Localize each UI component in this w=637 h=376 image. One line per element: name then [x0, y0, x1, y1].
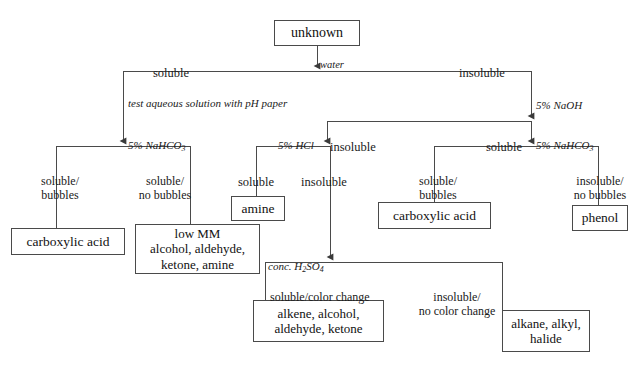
node-carboxylic-acid-left-label: carboxylic acid — [12, 234, 124, 250]
flowchart-canvas: unknown carboxylic acid low MM alcohol, … — [0, 0, 637, 376]
node-phenol: phenol — [572, 205, 628, 231]
branch-h2so4-no-color-change: insoluble/ no color change — [412, 277, 502, 318]
node-carboxylic-acid-left: carboxylic acid — [11, 228, 125, 255]
branch-naoh-soluble: soluble — [475, 126, 533, 155]
node-alkane-alkyl-halide: alkane, alkyl, halide — [502, 310, 590, 352]
branch-nahco3-left-no-bubbles: soluble/ no bubbles — [124, 161, 206, 202]
node-unknown: unknown — [274, 20, 360, 46]
reagent-nahco3-right-label: 5% NaHCO3 — [536, 126, 618, 153]
node-carboxylic-acid-right-label: carboxylic acid — [379, 208, 490, 224]
reagent-hcl-label: 5% HCl — [278, 126, 326, 151]
node-low-mm-label: low MM alcohol, aldehyde, ketone, amine — [136, 226, 259, 272]
branch-water-soluble: soluble — [128, 52, 214, 81]
reagent-water-label: water — [320, 47, 368, 71]
node-alkene-alcohol-aldehyde-ketone: alkene, alcohol, aldehyde, ketone — [253, 300, 384, 342]
reagent-h2so4-label: conc. H2SO4 — [268, 247, 330, 274]
note-ph-paper: test aqueous solution with pH paper — [128, 84, 368, 109]
node-amine-label: amine — [232, 201, 284, 217]
reagent-nahco3-left-label: 5% NaHCO3 — [128, 126, 208, 153]
node-carboxylic-acid-right: carboxylic acid — [378, 202, 491, 229]
node-alkane-group-label: alkane, alkyl, halide — [503, 316, 589, 347]
branch-h2so4-color-change: soluble/color change — [270, 277, 406, 305]
branch-hcl-soluble: soluble — [227, 161, 285, 190]
branch-nahco3-right-no-bubbles: insoluble/ no bubbles — [558, 161, 637, 202]
node-low-mm: low MM alcohol, aldehyde, ketone, amine — [135, 224, 260, 274]
reagent-naoh-label: 5% NaOH — [536, 86, 606, 111]
branch-hcl-insoluble: insoluble — [292, 161, 356, 190]
branch-nahco3-left-bubbles: soluble/ bubbles — [22, 161, 98, 202]
node-phenol-label: phenol — [573, 210, 627, 226]
node-unknown-label: unknown — [275, 25, 359, 42]
node-alkene-group-label: alkene, alcohol, aldehyde, ketone — [254, 306, 383, 337]
branch-water-insoluble: insoluble — [434, 52, 530, 81]
branch-nahco3-right-bubbles: soluble/ bubbles — [400, 161, 476, 202]
node-amine: amine — [231, 196, 285, 221]
branch-hcl-entry: insoluble — [330, 126, 390, 155]
